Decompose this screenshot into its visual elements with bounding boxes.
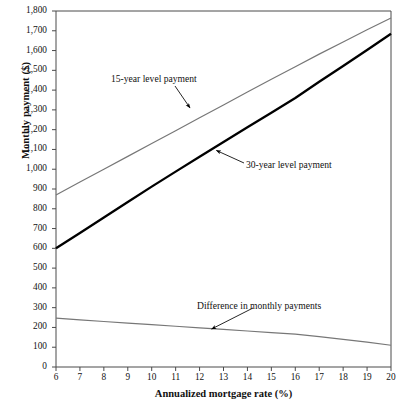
annotation-arrow-30-year — [216, 150, 244, 163]
annotation-arrow-15-year — [175, 86, 190, 108]
series-line — [56, 34, 391, 249]
series-line — [56, 18, 391, 195]
plot-area — [0, 0, 405, 418]
annotation-difference: Difference in monthly payments — [197, 300, 321, 311]
series-line — [56, 318, 391, 345]
plot-frame — [56, 11, 391, 367]
annotation-arrow-difference — [212, 308, 253, 329]
annotation-30-year: 30-year level payment — [246, 159, 332, 170]
annotation-15-year: 15-year level payment — [111, 73, 197, 84]
mortgage-payment-chart: Monthly payment ($) 01002003004005006007… — [0, 0, 405, 418]
